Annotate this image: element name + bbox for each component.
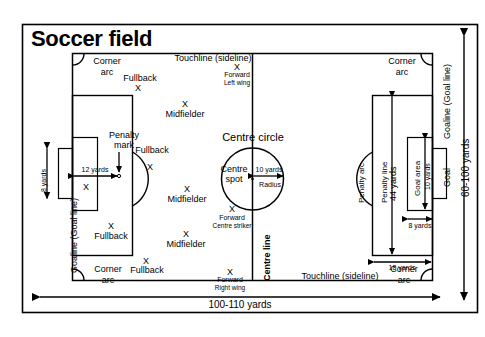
player-role-label: Midfielder	[165, 110, 204, 119]
touchline-bottom-label: Touchline (sideline)	[301, 272, 378, 281]
corner-arc-label-top-left-1: Corner	[93, 57, 121, 66]
radius-label: Radius	[259, 181, 281, 188]
player-role-label: Fullback	[123, 74, 157, 83]
dim-goal-width-left-label: 8 yards	[40, 169, 47, 192]
player-role-label: Fullback	[130, 266, 164, 275]
centre-spot-label-line2: spot	[225, 175, 242, 184]
corner-arc-label-bottom-right-2: arc	[398, 276, 411, 285]
centre-circle-label: Centre circle	[222, 132, 284, 144]
dim-length-label: 100-110 yards	[208, 300, 271, 311]
penalty-mark-left	[117, 174, 120, 177]
corner-arc-top-right	[421, 54, 433, 66]
player-role-label: Forward	[219, 214, 245, 221]
goalline-right-label: Goaline (Goal line)	[443, 64, 452, 139]
penalty-mark-label-line2: mark	[114, 141, 134, 150]
goal-area-label: Goal area	[414, 161, 422, 196]
page-title: Soccer field	[31, 27, 152, 50]
goal-left	[59, 149, 73, 199]
corner-arc-label-bottom-right-1: Corner	[390, 265, 418, 274]
centre-spot	[251, 178, 254, 181]
corner-arc-label-top-right-1: Corner	[388, 57, 416, 66]
player-subrole-label: Right wing	[215, 285, 245, 292]
player-subrole-label: Centre striker	[212, 223, 251, 230]
dim-penalty-spot-label: 12 yards	[82, 166, 109, 173]
dim-width-label: 60-100 yards	[461, 139, 472, 197]
dim-circle-radius-label: 10 yards	[256, 166, 283, 173]
dim-penalty-width-label: 44 yards	[389, 166, 398, 201]
corner-arc-label-bottom-left-1: Corner	[94, 265, 122, 274]
penalty-arc-label: Penalty arc	[358, 163, 366, 203]
player-role-label: Midfielder	[166, 240, 205, 249]
player-x-mark: X	[135, 84, 141, 93]
player-role-label: Forward	[217, 276, 243, 283]
player-role-label: Fullback	[135, 146, 169, 155]
player-subrole-label: Left wing	[224, 80, 250, 87]
dim-goalarea-depth-label: 8 yards	[409, 222, 432, 229]
player-role-label: Midfielder	[167, 195, 206, 204]
goal-label: Goal	[443, 168, 452, 187]
corner-arc-label-bottom-left-2: arc	[102, 276, 115, 285]
dim-goalarea-width-label: 10 yards	[424, 163, 431, 190]
corner-arc-label-top-right-2: arc	[396, 68, 409, 77]
penalty-arc-left	[133, 152, 149, 206]
centre-line-label: Centre line	[263, 234, 272, 281]
corner-arc-label-top-left-2: arc	[101, 68, 114, 77]
goalline-left-label: Goaline (Goal line)	[70, 198, 79, 273]
player-role-label: Fullback	[94, 232, 128, 241]
soccer-field-diagram: Soccer field Touchline (sideline) Touchl…	[0, 0, 485, 337]
player-x-mark: X	[147, 163, 153, 172]
player-x-mark: X	[83, 183, 89, 192]
player-role-label: Forward	[224, 71, 250, 78]
corner-arc-bottom-right	[421, 269, 433, 281]
corner-arc-top-left	[73, 54, 85, 66]
